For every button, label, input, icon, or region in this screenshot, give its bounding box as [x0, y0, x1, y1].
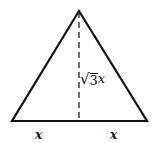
height-label: √ 3 x: [80, 72, 105, 87]
height-variable: x: [98, 72, 105, 85]
sqrt-symbol: √: [80, 72, 90, 87]
right-base-label: x: [110, 129, 117, 141]
left-base-label: x: [35, 129, 42, 141]
triangle-diagram: [0, 0, 155, 143]
radicand: 3: [90, 73, 98, 87]
